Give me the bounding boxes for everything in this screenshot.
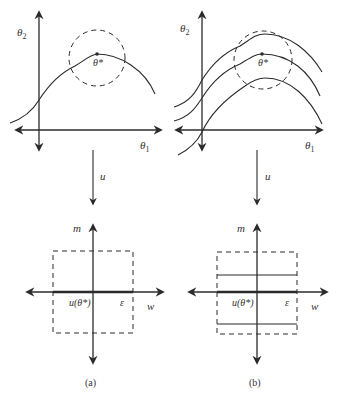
panel-b-curve-lower [178, 78, 322, 155]
panel-a-feature-space: m w u(θ*) ε (a) [27, 222, 163, 389]
panel-b-parameter-space: θ2 θ1 θ* [174, 12, 322, 155]
panel-a-caption: (a) [85, 377, 96, 389]
panel-b-mapping-arrow: u [257, 150, 271, 204]
panel-a-origin-label: u(θ*) [69, 297, 91, 309]
panel-b-theta2-label: θ2 [180, 22, 189, 37]
panel-a-epsilon-label: ε [120, 297, 124, 308]
panel-b-mapping-label: u [265, 170, 271, 182]
panel-b-caption: (b) [249, 377, 261, 389]
panel-b-feature-space: m w u(θ*) ε (b) [189, 222, 327, 389]
diagram-canvas: θ2 θ1 θ* u m w u(θ*) ε (a) θ2 θ1 θ* u [0, 0, 337, 399]
panel-a-optimum-label: θ* [93, 57, 103, 68]
panel-a-theta2-label: θ2 [17, 26, 26, 41]
panel-a-w-label: w [147, 300, 155, 312]
panel-a-parameter-space: θ2 θ1 θ* [10, 12, 161, 154]
panel-b-curve-upper [174, 34, 322, 107]
panel-b-origin-label: u(θ*) [232, 297, 254, 309]
panel-b-optimum-label: θ* [258, 57, 268, 68]
panel-a-m-label: m [73, 222, 81, 234]
panel-b-curve-middle [174, 54, 320, 121]
panel-a-objective-curve [10, 54, 155, 123]
panel-b-optimum-point [260, 52, 264, 56]
panel-a-mapping-label: u [100, 170, 106, 182]
panel-a-optimum-point [95, 52, 99, 56]
panel-b-theta1-label: θ1 [305, 139, 314, 154]
panel-a-theta1-label: θ1 [140, 139, 149, 154]
panel-b-epsilon-label: ε [285, 297, 289, 308]
panel-a-mapping-arrow: u [93, 150, 106, 204]
panel-b-w-label: w [311, 300, 319, 312]
panel-b-m-label: m [237, 222, 245, 234]
